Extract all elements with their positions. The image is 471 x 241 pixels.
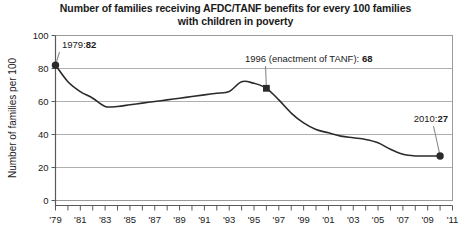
y-axis-ticks: 020406080100 bbox=[33, 30, 56, 207]
anno-1996-marker bbox=[263, 85, 270, 92]
x-tick-label-1997: '97 bbox=[273, 214, 285, 225]
anno-1979-label-prefix: 1979: bbox=[62, 39, 86, 50]
chart-container: Number of families receiving AFDC/TANF b… bbox=[0, 0, 471, 241]
x-tick-label-1987: '87 bbox=[149, 214, 161, 225]
y-tick-label-0: 0 bbox=[43, 195, 48, 206]
anno-1979-label: 1979:82 bbox=[62, 39, 96, 50]
y-axis-title: Number of families per 100 bbox=[7, 58, 18, 178]
anno-2010-label-value: 27 bbox=[437, 113, 448, 124]
x-tick-label-1995: '95 bbox=[248, 214, 260, 225]
data-series-line bbox=[56, 65, 441, 156]
line-chart: 020406080100 '79'81'83'85'87'89'91'93'95… bbox=[0, 0, 471, 241]
x-tick-label-1999: '99 bbox=[297, 214, 309, 225]
annotation-labels: 1979:821996 (enactment of TANF): 682010:… bbox=[62, 39, 448, 124]
anno-2010-marker bbox=[436, 152, 443, 159]
x-tick-label-1991: '91 bbox=[198, 214, 210, 225]
x-tick-label-2007: '07 bbox=[397, 214, 409, 225]
y-tick-label-40: 40 bbox=[38, 129, 49, 140]
y-tick-label-60: 60 bbox=[38, 96, 49, 107]
x-tick-label-2003: '03 bbox=[347, 214, 359, 225]
x-tick-label-2001: '01 bbox=[322, 214, 334, 225]
x-tick-label-1989: '89 bbox=[173, 214, 185, 225]
x-tick-label-2011: '11 bbox=[447, 214, 459, 225]
annotation-leader-lines bbox=[56, 52, 441, 156]
anno-1996-label-value: 68 bbox=[362, 53, 373, 64]
anno-1979-label-value: 82 bbox=[86, 39, 97, 50]
x-tick-label-1985: '85 bbox=[124, 214, 136, 225]
anno-2010-leader-line bbox=[434, 126, 441, 156]
x-tick-label-2009: '09 bbox=[421, 214, 433, 225]
x-tick-label-1979: '79 bbox=[49, 214, 61, 225]
x-tick-label-1993: '93 bbox=[223, 214, 235, 225]
y-tick-label-20: 20 bbox=[38, 162, 49, 173]
x-tick-label-2005: '05 bbox=[372, 214, 384, 225]
y-tick-label-100: 100 bbox=[33, 30, 49, 41]
series-line-afdc-tanf bbox=[56, 65, 441, 156]
anno-1996-label-prefix: 1996 (enactment of TANF): bbox=[245, 53, 362, 64]
anno-2010-label-prefix: 2010: bbox=[414, 113, 438, 124]
data-point-markers bbox=[52, 61, 444, 159]
anno-2010-label: 2010:27 bbox=[414, 113, 448, 124]
y-tick-label-80: 80 bbox=[38, 63, 49, 74]
x-axis-ticks: '79'81'83'85'87'89'91'93'95'97'99'01'03'… bbox=[49, 206, 458, 225]
x-tick-label-1981: '81 bbox=[74, 214, 86, 225]
x-tick-label-1983: '83 bbox=[99, 214, 111, 225]
anno-1979-marker bbox=[52, 61, 59, 68]
anno-1996-label: 1996 (enactment of TANF): 68 bbox=[245, 53, 372, 64]
y-axis-title-text: Number of families per 100 bbox=[7, 58, 18, 178]
